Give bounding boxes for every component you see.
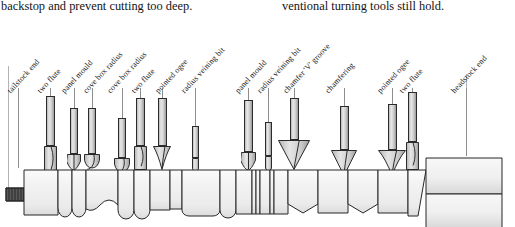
spindle-neck-1 — [170, 170, 182, 209]
spindle-cove-1 — [86, 170, 118, 210]
router-bit-spindle-diagram: tailstock endtwo flutepanel mouldcove bo… — [0, 18, 515, 227]
spindle-runout — [378, 170, 408, 213]
spindle-bead-1 — [58, 170, 72, 217]
spindle-fillet-6 — [274, 170, 288, 214]
spindle-taper — [408, 170, 426, 216]
spindle-fillet-2 — [252, 170, 256, 214]
spindle-fillet-1 — [236, 170, 252, 214]
spindle-headstock-block-lower — [426, 194, 502, 227]
spindle-barrel-1 — [182, 170, 220, 216]
spindle-pommel — [24, 170, 58, 215]
spindle-headstock-block-upper — [426, 158, 502, 194]
spindle-vee-1 — [288, 170, 318, 213]
figure-page: backstop and prevent cutting too deep. v… — [0, 0, 515, 227]
spindle-fillet-3 — [256, 170, 260, 214]
spindle-step-2 — [318, 170, 348, 213]
spindle-step-1 — [150, 170, 170, 210]
body-text-right-column: ventional turning tools still hold. — [282, 0, 444, 13]
spindle-bead-4 — [134, 170, 150, 219]
spindle-bead-3 — [118, 170, 134, 219]
spindle-fillet-4 — [260, 170, 270, 214]
spindle-vee-2 — [348, 170, 378, 213]
body-text-left-column: backstop and prevent cutting too deep. — [1, 0, 192, 13]
spindle-bead-5 — [220, 170, 236, 218]
turned-spindle-drawing — [0, 18, 515, 227]
spindle-fillet-5 — [270, 170, 274, 214]
spindle-bead-2 — [72, 170, 86, 217]
